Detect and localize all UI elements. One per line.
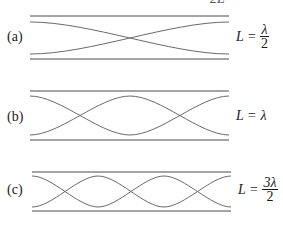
numerator: 3λ bbox=[262, 176, 277, 190]
panel-c-wave bbox=[32, 176, 231, 207]
panel-a-wave bbox=[30, 22, 229, 54]
panel-b-equation: L = λ bbox=[236, 108, 267, 124]
panel-b-pipe bbox=[30, 91, 229, 140]
equation-lhs: L = bbox=[236, 29, 256, 45]
denominator: 2 bbox=[261, 37, 268, 50]
equation-lhs: L = bbox=[238, 182, 258, 198]
panel-c-equation: L = 3λ 2 bbox=[238, 176, 278, 203]
panel-b-label: (b) bbox=[7, 109, 23, 125]
panel-c-label: (c) bbox=[7, 182, 23, 198]
panel-a-label: (a) bbox=[7, 29, 23, 45]
fraction: λ 2 bbox=[260, 23, 268, 50]
fraction: 3λ 2 bbox=[262, 176, 277, 203]
numerator: λ bbox=[260, 23, 268, 37]
panel-a-equation: L = λ 2 bbox=[236, 23, 269, 50]
equation-rhs: λ bbox=[260, 108, 266, 124]
equation-lhs: L = bbox=[236, 108, 256, 124]
panel-b-wave bbox=[30, 96, 229, 135]
denominator: 2 bbox=[267, 190, 274, 203]
